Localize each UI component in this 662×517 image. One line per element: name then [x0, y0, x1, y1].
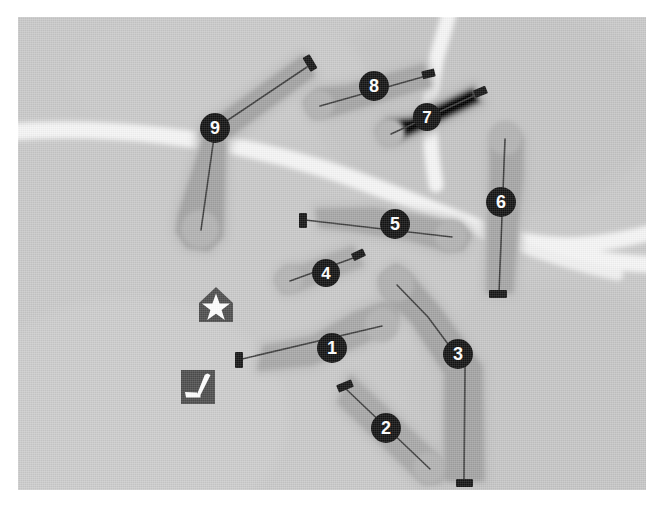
practice-green-marker[interactable]: [181, 370, 215, 404]
hole-number-6: 6: [496, 192, 506, 212]
course-map-vector[interactable]: 1 2 3 4 5: [18, 17, 646, 490]
hole-number-5: 5: [390, 214, 400, 234]
hole-number-3: 3: [453, 344, 463, 364]
golf-course-map-screenshot: 1 2 3 4 5: [0, 0, 662, 517]
hole-badge-4[interactable]: 4: [312, 259, 340, 287]
hole-number-2: 2: [381, 418, 391, 438]
hole-badge-3[interactable]: 3: [443, 339, 473, 369]
hole-badge-6[interactable]: 6: [486, 187, 516, 217]
hole-number-8: 8: [369, 76, 379, 96]
green-hole-7: [375, 118, 405, 148]
tee-marker-hole-1[interactable]: [235, 352, 243, 368]
hole-badge-5[interactable]: 5: [380, 209, 410, 239]
course-map-canvas[interactable]: 1 2 3 4 5: [18, 17, 646, 490]
hole-badge-2[interactable]: 2: [371, 413, 401, 443]
hole-badge-1[interactable]: 1: [317, 333, 347, 363]
tee-marker-hole-5[interactable]: [299, 213, 307, 228]
green-hole-9: [181, 210, 219, 248]
green-hole-4: [275, 266, 303, 294]
tee-marker-hole-3[interactable]: [456, 479, 473, 487]
tee-marker-hole-6[interactable]: [489, 290, 507, 298]
hole-badge-9[interactable]: 9: [200, 113, 230, 143]
green-hole-8: [304, 90, 334, 120]
hole-number-1: 1: [327, 338, 337, 358]
hole-number-4: 4: [321, 264, 331, 283]
hole-badge-7[interactable]: 7: [413, 103, 441, 131]
hole-number-7: 7: [422, 108, 431, 127]
hole-badge-8[interactable]: 8: [359, 71, 389, 101]
green-hole-1: [365, 308, 399, 342]
hole-number-9: 9: [210, 118, 220, 138]
